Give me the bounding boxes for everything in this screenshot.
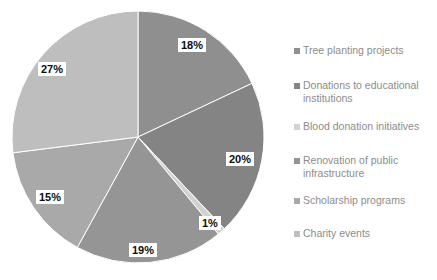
legend-item-label: Scholarship programs bbox=[303, 194, 405, 207]
pie-slice-charity-events[interactable] bbox=[12, 11, 138, 153]
legend-item-3[interactable]: Renovation of public infrastructure bbox=[294, 154, 437, 179]
legend-swatch-icon bbox=[294, 48, 300, 54]
legend-item-0[interactable]: Tree planting projects bbox=[294, 44, 437, 57]
legend-item-1[interactable]: Donations to educational institutions bbox=[294, 79, 437, 104]
data-label-renovation-public-infra: 19% bbox=[129, 243, 157, 257]
legend-item-label: Charity events bbox=[303, 227, 370, 240]
legend-swatch-icon bbox=[294, 231, 300, 237]
legend-item-4[interactable]: Scholarship programs bbox=[294, 194, 437, 207]
legend-swatch-icon bbox=[294, 158, 300, 164]
legend-swatch-icon bbox=[294, 198, 300, 204]
legend-item-label: Blood donation initiatives bbox=[303, 120, 419, 133]
pie-plot-area bbox=[0, 0, 285, 280]
data-label-scholarship-programs: 15% bbox=[36, 190, 64, 204]
pie-svg bbox=[0, 0, 285, 280]
legend-item-label: Donations to educational institutions bbox=[303, 79, 437, 104]
legend-item-5[interactable]: Charity events bbox=[294, 227, 437, 240]
data-label-blood-donation-initiatives: 1% bbox=[199, 216, 221, 230]
pie-slice-group bbox=[12, 11, 264, 263]
data-label-donations-education: 20% bbox=[226, 152, 254, 166]
legend-swatch-icon bbox=[294, 83, 300, 89]
legend-swatch-icon bbox=[294, 124, 300, 130]
pie-chart-figure: 18%20%1%19%15%27% Tree planting projects… bbox=[0, 0, 437, 280]
data-label-tree-planting-projects: 18% bbox=[178, 38, 206, 52]
legend-item-label: Renovation of public infrastructure bbox=[303, 154, 437, 179]
legend-item-label: Tree planting projects bbox=[303, 44, 404, 57]
legend-item-2[interactable]: Blood donation initiatives bbox=[294, 120, 437, 133]
data-label-charity-events: 27% bbox=[38, 62, 66, 76]
